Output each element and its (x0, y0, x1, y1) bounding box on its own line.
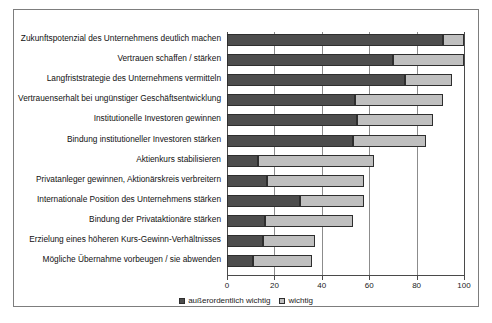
category-label: Bindung institutioneller Investoren stär… (14, 134, 226, 144)
gridline-100 (464, 32, 465, 275)
bar-segment (253, 255, 312, 267)
category-label: Internationale Position des Unternehmens… (14, 194, 226, 204)
category-label: Bindung der Privataktionäre stärken (14, 214, 226, 224)
x-axis-line (227, 275, 465, 276)
category-label: Aktienkurs stabilisieren (14, 154, 226, 164)
x-tick-label: 80 (412, 281, 421, 290)
category-label: Vertrauen schaffen / stärken (14, 53, 226, 63)
bar-segment (227, 195, 300, 207)
bar-segment (258, 155, 374, 167)
legend-label: wichtig (288, 296, 312, 306)
legend-item-1: wichtig (279, 296, 312, 306)
x-tick-label: 20 (270, 281, 279, 290)
bar-segment (227, 235, 263, 247)
bar-segment (227, 94, 355, 106)
category-label: Privatanleger gewinnen, Aktionärskreis v… (14, 174, 226, 184)
bar-segment (353, 135, 426, 147)
category-label: Mögliche Übernahme vorbeugen / sie abwen… (14, 254, 226, 264)
x-tick (322, 275, 323, 280)
x-tick-label: 100 (457, 281, 470, 290)
bar-segment (227, 175, 267, 187)
category-label: Langfriststrategie des Unternehmens verm… (14, 73, 226, 83)
category-label: Vertrauenserhalt bei ungünstiger Geschäf… (14, 93, 226, 103)
x-tick-label: 0 (225, 281, 229, 290)
x-tick (227, 275, 228, 280)
bar-segment (227, 215, 265, 227)
bar-segment (443, 34, 464, 46)
gridline-80 (417, 32, 418, 275)
chart-frame: Zukunftspotenzial des Unternehmens deutl… (13, 9, 479, 307)
bar-segment (227, 155, 258, 167)
bar-segment (263, 235, 315, 247)
bar-segment (227, 54, 393, 66)
x-tick (274, 275, 275, 280)
bar-segment (357, 114, 433, 126)
legend-swatch-icon (279, 298, 285, 304)
bar-segment (227, 255, 253, 267)
bar-segment (355, 94, 443, 106)
gridline-40 (322, 32, 323, 275)
x-tick (369, 275, 370, 280)
bar-segment (393, 54, 464, 66)
bar-segment (227, 34, 443, 46)
category-label: Institutionelle Investoren gewinnen (14, 113, 226, 123)
category-label: Zukunftspotenzial des Unternehmens deutl… (14, 33, 226, 43)
bar-segment (405, 74, 452, 86)
category-label: Erzielung eines höheren Kurs-Gewinn-Verh… (14, 234, 226, 244)
bar-segment (227, 74, 405, 86)
x-tick-label: 40 (317, 281, 326, 290)
legend-label: außerordentlich wichtig (188, 296, 270, 306)
bar-segment (267, 175, 364, 187)
x-tick (464, 275, 465, 280)
x-tick (417, 275, 418, 280)
bar-segment (300, 195, 364, 207)
gridline-60 (369, 32, 370, 275)
legend-swatch-icon (179, 298, 185, 304)
bar-segment (227, 114, 357, 126)
bar-segment (227, 135, 353, 147)
x-tick-label: 60 (365, 281, 374, 290)
chart-legend: außerordentlich wichtig wichtig (14, 296, 478, 306)
legend-item-0: außerordentlich wichtig (179, 296, 270, 306)
bar-segment (265, 215, 353, 227)
